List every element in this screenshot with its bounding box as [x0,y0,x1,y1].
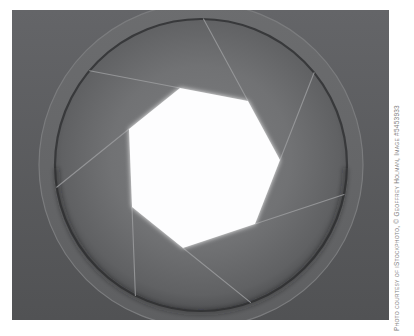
photo-credit: Photo courtesy of iStockphoto, © Geoffre… [393,105,401,331]
figure-page: Photo courtesy of iStockphoto, © Geoffre… [0,0,414,336]
aperture-photo-canvas [12,10,389,320]
aperture-photo [12,10,389,320]
